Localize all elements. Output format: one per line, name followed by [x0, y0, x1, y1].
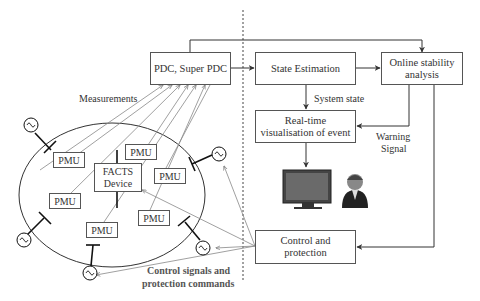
monitor-icon [283, 170, 331, 209]
generator-icon [178, 216, 210, 255]
facts-label: FACTS [103, 166, 133, 178]
system-state-label: System state [314, 93, 364, 105]
generator-icon [17, 212, 51, 247]
warning-label: Warning [376, 131, 410, 143]
realtime-visualisation-box: Real-timevisualisation of event [255, 110, 356, 143]
pmu-box: PMU [154, 168, 186, 184]
wams-diagram: PDC, Super PDC State Estimation Online s… [0, 0, 480, 301]
control-protection-box: Control andprotection [255, 230, 356, 264]
pdc-label: PDC, Super PDC [154, 63, 227, 75]
control-label-2: protection [284, 247, 327, 259]
protection-commands-label: protection commands [142, 278, 234, 290]
state-estimation-box: State Estimation [255, 52, 356, 85]
realtime-label: Real-time [285, 115, 326, 127]
generator-icon [189, 147, 226, 171]
pmu-box: PMU [49, 193, 81, 209]
control-label: Control and [281, 235, 331, 247]
online-stability-label: Online stability [389, 57, 454, 69]
pdc-box: PDC, Super PDC [150, 52, 231, 85]
operator-icon [342, 174, 368, 208]
pmu-box: PMU [125, 144, 157, 160]
control-signals-label: Control signals and [147, 265, 230, 277]
pmu-box: PMU [86, 222, 118, 238]
realtime-label-2: visualisation of event [261, 127, 351, 139]
measurements-label: Measurements [79, 93, 137, 105]
state-estimation-label: State Estimation [271, 63, 340, 75]
signal-label: Signal [381, 143, 407, 155]
facts-device-box: FACTSDevice [94, 163, 142, 192]
online-stability-box: Online stabilityanalysis [381, 52, 463, 85]
facts-label-2: Device [104, 178, 132, 190]
pmu-box: PMU [53, 152, 85, 168]
connectors [0, 0, 480, 301]
online-stability-label-2: analysis [405, 69, 439, 81]
pmu-box: PMU [138, 210, 170, 226]
